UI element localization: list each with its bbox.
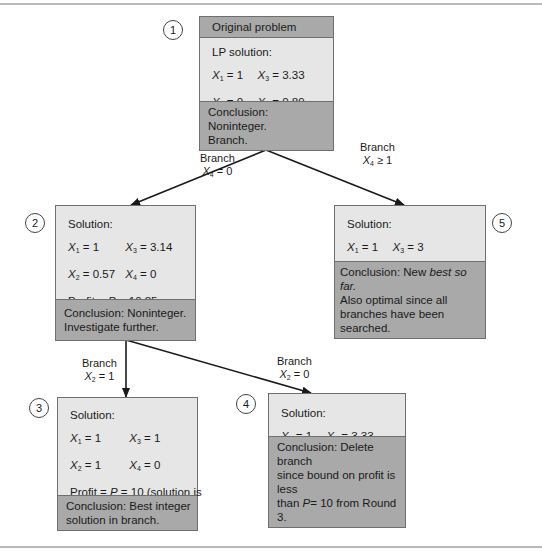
node-1-box: Original problem LP solution: X1 = 1 X3 … bbox=[199, 16, 334, 151]
node-number-2: 2 bbox=[25, 213, 45, 233]
node-4-box: Solution: X1 = 1 X3 = 3.33 X2 = 0 X4 = 0… bbox=[268, 393, 406, 528]
node-2-row-x1-x3: X1 = 1 X3 = 3.14 bbox=[68, 240, 187, 258]
node-5-box: Solution: X1 = 1 X3 = 3 X2 = 0 X4 = 1 Pr… bbox=[334, 205, 486, 339]
node-4-conclusion: Conclusion: Delete branch since bound on… bbox=[269, 436, 405, 527]
node-2-row-x2-x4: X2 = 0.57 X4 = 0 bbox=[68, 267, 187, 285]
node-3-conclusion: Conclusion: Best integer solution in bra… bbox=[58, 495, 197, 530]
branch-label-x2-eq-1: Branch X2 = 1 bbox=[82, 357, 117, 386]
branch-label-x2-eq-0: Branch X2 = 0 bbox=[277, 355, 312, 384]
node-4-solution-label: Solution: bbox=[281, 406, 397, 420]
node-number-1: 1 bbox=[163, 20, 183, 40]
node-number-4: 4 bbox=[236, 394, 256, 414]
node-3-row-x1-x3: X1 = 1 X3 = 1 bbox=[70, 431, 189, 449]
node-1-row-x1-x3: X1 = 1 X3 = 3.33 bbox=[212, 68, 325, 86]
node-5-row-x1-x3: X1 = 1 X3 = 3 bbox=[347, 240, 477, 258]
node-1-header: Original problem bbox=[200, 17, 333, 38]
node-number-3: 3 bbox=[29, 398, 49, 418]
node-2-solution-label: Solution: bbox=[68, 217, 187, 231]
node-3-box: Solution: X1 = 1 X3 = 1 X2 = 1 X4 = 0 Pr… bbox=[57, 397, 198, 531]
node-3-solution-label: Solution: bbox=[70, 408, 189, 422]
node-2-box: Solution: X1 = 1 X3 = 3.14 X2 = 0.57 X4 … bbox=[55, 205, 196, 341]
edge-1-2 bbox=[131, 150, 266, 205]
branch-label-x4-eq-0: Branch X4 = 0 bbox=[200, 152, 235, 181]
node-1-conclusion: Conclusion: Noninteger. Branch. bbox=[200, 101, 333, 150]
node-5-conclusion: Conclusion: New best so far. Also optima… bbox=[335, 261, 485, 338]
node-3-row-x2-x4: X2 = 1 X4 = 0 bbox=[70, 458, 189, 476]
branch-label-x4-ge-1: Branch X4 ≥ 1 bbox=[360, 141, 395, 170]
node-5-solution-label: Solution: bbox=[347, 217, 477, 231]
node-2-conclusion: Conclusion: Noninteger. Investigate furt… bbox=[56, 299, 195, 340]
node-number-5: 5 bbox=[492, 213, 512, 233]
node-1-solution-label: LP solution: bbox=[212, 45, 325, 59]
